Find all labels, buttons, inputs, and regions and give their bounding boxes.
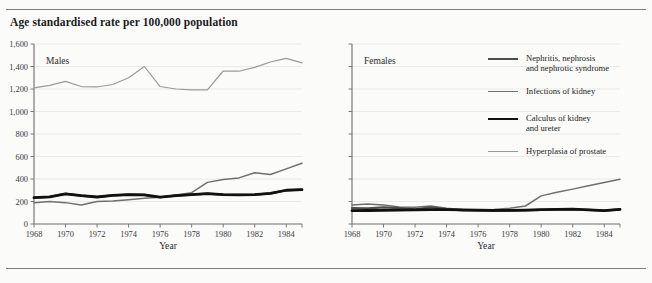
series-line — [34, 190, 302, 198]
legend-label: Calculus of kidney and ureter — [526, 114, 591, 133]
series-line — [352, 209, 620, 211]
legend-line-icon — [488, 114, 518, 124]
plot-area-males: 02004006008001,0001,2001,4001,600 196819… — [34, 44, 302, 224]
plot-svg-males: 02004006008001,0001,2001,4001,600 196819… — [34, 44, 302, 224]
legend-label-line2: and ureter — [526, 124, 591, 134]
svg-text:0: 0 — [24, 220, 28, 229]
svg-text:1,400: 1,400 — [9, 63, 28, 72]
bottom-rule — [6, 268, 646, 269]
svg-text:1972: 1972 — [89, 230, 106, 239]
svg-text:1972: 1972 — [407, 230, 424, 239]
svg-text:1976: 1976 — [470, 230, 487, 239]
series-line — [34, 58, 302, 90]
panel-label-males: Males — [46, 56, 69, 66]
legend-label-line2: and nephrotic syndrome — [526, 64, 609, 74]
legend-line-icon — [488, 87, 518, 97]
x-axis-title-males: Year — [34, 240, 302, 251]
legend-item-nephritis: Nephritis, nephrosis and nephrotic syndr… — [488, 54, 648, 73]
legend-label: Nephritis, nephrosis and nephrotic syndr… — [526, 54, 609, 73]
svg-text:1974: 1974 — [120, 230, 138, 239]
y-axis-females — [349, 44, 353, 224]
svg-text:1,000: 1,000 — [9, 108, 28, 117]
svg-text:1968: 1968 — [344, 230, 361, 239]
svg-text:1970: 1970 — [375, 230, 392, 239]
legend-label-line1: Infections of kidney — [526, 87, 595, 97]
svg-text:800: 800 — [15, 130, 28, 139]
svg-text:1980: 1980 — [533, 230, 550, 239]
gridlines-males — [34, 44, 302, 202]
svg-text:1978: 1978 — [501, 230, 518, 239]
x-axis-females: 196819701972197419761978198019821984 — [344, 224, 620, 239]
svg-text:1,600: 1,600 — [9, 40, 28, 49]
legend-item-hyperplasia: Hyperplasia of prostate — [488, 147, 648, 157]
svg-text:600: 600 — [15, 153, 28, 162]
legend-label: Hyperplasia of prostate — [526, 147, 606, 157]
svg-text:1982: 1982 — [246, 230, 263, 239]
figure-container: Age standardised rate per 100,000 popula… — [0, 0, 652, 283]
figure-title: Age standardised rate per 100,000 popula… — [10, 16, 238, 28]
svg-text:1968: 1968 — [26, 230, 43, 239]
chart-panel-males: 02004006008001,0001,2001,4001,600 196819… — [34, 44, 334, 244]
y-axis-males: 02004006008001,0001,2001,4001,600 — [9, 40, 34, 229]
legend-label-line1: Hyperplasia of prostate — [526, 147, 606, 157]
top-rule — [6, 9, 646, 10]
svg-text:1970: 1970 — [57, 230, 74, 239]
x-axis-males: 196819701972197419761978198019821984 — [26, 224, 302, 239]
svg-text:1980: 1980 — [215, 230, 232, 239]
legend-item-infections: Infections of kidney — [488, 87, 648, 97]
series-group-females — [352, 179, 620, 211]
svg-text:1976: 1976 — [152, 230, 169, 239]
svg-text:400: 400 — [15, 175, 28, 184]
legend-line-icon — [488, 147, 518, 157]
panel-label-females: Females — [364, 56, 396, 66]
chart-panel-females: 196819701972197419761978198019821984 Fem… — [352, 44, 652, 244]
svg-text:1974: 1974 — [438, 230, 456, 239]
legend-line-icon — [488, 54, 518, 64]
series-line — [352, 179, 620, 210]
series-group-males — [34, 58, 302, 205]
series-line — [34, 163, 302, 205]
svg-text:1982: 1982 — [564, 230, 581, 239]
legend-item-calculus: Calculus of kidney and ureter — [488, 114, 648, 133]
svg-text:1978: 1978 — [183, 230, 200, 239]
svg-text:1984: 1984 — [596, 230, 614, 239]
svg-text:1984: 1984 — [278, 230, 296, 239]
legend-label: Infections of kidney — [526, 87, 595, 97]
x-axis-title-females: Year — [352, 240, 620, 251]
svg-text:200: 200 — [15, 198, 28, 207]
svg-text:1,200: 1,200 — [9, 85, 28, 94]
